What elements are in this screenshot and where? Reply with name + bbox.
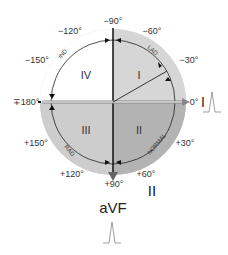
angle-zero: 0° (190, 97, 199, 107)
angle-plus60: +60° (137, 169, 156, 179)
avf-waveform (103, 222, 121, 243)
axis-diagram: LAD IND RAD NORMAL (0, 0, 228, 255)
angle-minus60: −60° (143, 26, 162, 36)
quadrant-iii (40, 102, 113, 175)
quadrant-ii-label: II (136, 124, 142, 136)
angle-minus90: −90° (104, 16, 123, 26)
lead-avf-label: aVF (99, 199, 127, 216)
angle-plus30: +30° (176, 138, 195, 148)
angle-plus150: +150° (24, 138, 48, 148)
quadrant-iv-label: IV (81, 69, 91, 81)
lead-ii-label: II (148, 182, 156, 199)
lead-i-label: I (201, 94, 205, 110)
angle-plus120: +120° (60, 169, 84, 179)
angle-minus30: −30° (180, 55, 199, 65)
angle-plus90: +90° (105, 179, 124, 189)
angle-minus150: −150° (25, 55, 49, 65)
quadrant-i-label: I (137, 69, 140, 81)
lead-i-waveform (203, 92, 221, 112)
quadrant-iv (40, 29, 113, 102)
quadrant-iii-label: III (81, 124, 90, 136)
quadrant-i (113, 29, 186, 102)
angle-pm180: ∓180° (13, 97, 40, 107)
angle-minus120: −120° (58, 26, 82, 36)
